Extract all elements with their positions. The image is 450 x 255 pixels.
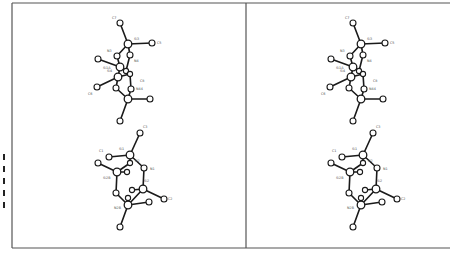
- atom-label: Si3: [134, 37, 139, 41]
- atom-sia: [114, 73, 122, 81]
- atom-label: Si2B: [336, 176, 344, 180]
- margin-mark: [3, 190, 5, 196]
- atom-label: N44: [136, 87, 143, 91]
- atom-h2: [360, 71, 365, 76]
- atom-n44: [128, 86, 134, 92]
- right-stereo-view: C7Si3C5N3N4Si1ASi4C8N44C6C3Si1C1N2N1Si2B…: [321, 16, 406, 230]
- atom-label: N2B: [347, 206, 355, 210]
- atom-c11: [146, 199, 152, 205]
- atom-h4: [362, 187, 367, 192]
- atom-label: C8: [140, 79, 145, 83]
- atom-label: C5: [390, 41, 395, 45]
- atom-label: C2: [401, 197, 406, 201]
- atom-label: N2: [135, 159, 140, 163]
- atom-label: N3: [340, 49, 345, 53]
- margin-mark: [3, 166, 5, 172]
- atom-n5: [346, 85, 352, 91]
- atom-c10: [117, 118, 123, 124]
- atom-n6: [113, 190, 119, 196]
- atom-cl: [328, 56, 334, 62]
- atom-n5: [113, 85, 119, 91]
- atom-n6: [346, 190, 352, 196]
- atom-label: C6: [88, 92, 93, 96]
- atom-si5: [357, 95, 365, 103]
- atom-label: C6: [321, 92, 326, 96]
- atom-si4: [116, 63, 124, 71]
- atom-n3: [114, 53, 120, 59]
- atom-c9: [147, 96, 153, 102]
- atom-c5: [382, 40, 388, 46]
- atom-label: C1: [99, 149, 104, 153]
- atom-label: N1: [150, 167, 155, 171]
- atom-label: C2: [168, 197, 173, 201]
- atom-si1: [359, 151, 367, 159]
- margin-mark: [3, 154, 5, 160]
- atom-label: Si2: [144, 179, 149, 183]
- atom-n2: [360, 160, 365, 165]
- atoms: [94, 20, 167, 230]
- atom-label: Si3: [367, 37, 372, 41]
- atom-label: Si1: [119, 147, 124, 151]
- atom-label: C7: [112, 16, 117, 20]
- atom-h4: [129, 187, 134, 192]
- atom-c9: [380, 96, 386, 102]
- stereo-molecular-figure: C7Si3C5N3N4Si1ASi4C8N44C6C3Si1C1N2N1Si2B…: [0, 0, 450, 255]
- atom-si2: [139, 185, 147, 193]
- atom-label: N2B: [114, 206, 122, 210]
- atom-n1: [374, 165, 380, 171]
- atom-n2b: [124, 201, 132, 209]
- atom-label: C8: [373, 79, 378, 83]
- atom-label: C3: [376, 125, 381, 129]
- atom-si2b: [113, 168, 121, 176]
- atom-c3: [370, 130, 376, 136]
- atom-n3: [347, 53, 353, 59]
- atom-n2: [127, 160, 132, 165]
- atom-label: Si4: [340, 69, 345, 73]
- atom-n4: [360, 52, 366, 58]
- atom-label: N4: [367, 59, 372, 63]
- atom-c3: [137, 130, 143, 136]
- atom-label: Si1: [352, 147, 357, 151]
- atom-label: C1: [332, 149, 337, 153]
- atom-h2: [127, 71, 132, 76]
- atom-n2b: [357, 201, 365, 209]
- atom-label: Si2B: [103, 176, 111, 180]
- atom-c2: [394, 196, 400, 202]
- atom-label: Si2: [377, 179, 382, 183]
- atom-n1: [141, 165, 147, 171]
- atom-h3: [124, 169, 129, 174]
- margin-mark: [3, 178, 5, 184]
- atom-c7: [350, 20, 356, 26]
- atom-c1: [339, 154, 345, 160]
- atom-h3: [357, 169, 362, 174]
- atom-c12: [117, 224, 123, 230]
- atom-si1: [126, 151, 134, 159]
- atom-h5: [358, 195, 363, 200]
- atom-label: C3: [143, 125, 148, 129]
- left-stereo-view: C7Si3C5N3N4Si1ASi4C8N44C6C3Si1C1N2N1Si2B…: [88, 16, 173, 230]
- atom-label: C5: [157, 41, 162, 45]
- atom-sia: [347, 73, 355, 81]
- atom-label: Si4: [107, 69, 112, 73]
- atom-si2: [372, 185, 380, 193]
- atom-c2: [161, 196, 167, 202]
- atom-c12: [350, 224, 356, 230]
- atom-c1: [106, 154, 112, 160]
- atom-label: N1: [383, 167, 388, 171]
- atom-h5: [125, 195, 130, 200]
- atom-cx: [95, 160, 101, 166]
- margin-mark: [3, 202, 5, 208]
- atom-c11: [379, 199, 385, 205]
- atom-si3: [124, 40, 132, 48]
- atom-cl: [95, 56, 101, 62]
- atom-label: N3: [107, 49, 112, 53]
- atom-c10: [350, 118, 356, 124]
- atom-c7: [117, 20, 123, 26]
- atom-label: N44: [369, 87, 376, 91]
- atom-c5: [149, 40, 155, 46]
- atom-label: N2: [368, 159, 373, 163]
- atom-n44: [361, 86, 367, 92]
- atom-label: N4: [134, 59, 139, 63]
- atom-si5: [124, 95, 132, 103]
- atom-n4: [127, 52, 133, 58]
